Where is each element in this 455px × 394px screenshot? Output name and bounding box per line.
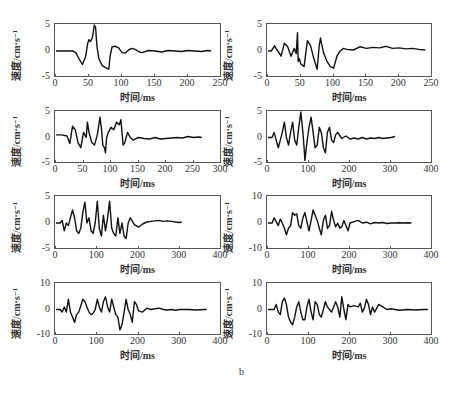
x-tick-label: 100 bbox=[89, 250, 104, 260]
x-axis-label: 时间/ms bbox=[332, 261, 367, 276]
x-tick-label: 250 bbox=[424, 78, 439, 88]
x-axis-label: 时间/ms bbox=[120, 347, 155, 362]
x-tick-label: 300 bbox=[383, 336, 398, 346]
x-tick-label: 200 bbox=[130, 336, 145, 346]
x-tick-mark bbox=[55, 246, 56, 249]
x-tick-label: 100 bbox=[89, 336, 104, 346]
x-tick-mark bbox=[308, 332, 309, 335]
x-tick-mark bbox=[349, 160, 350, 163]
x-tick-mark bbox=[308, 246, 309, 249]
y-axis-label: 速度/cm·s⁻¹ bbox=[8, 202, 23, 253]
y-axis-label: 速度/cm·s⁻¹ bbox=[220, 202, 235, 253]
plot-area bbox=[266, 23, 432, 77]
x-tick-mark bbox=[267, 332, 268, 335]
plot-area bbox=[54, 110, 221, 163]
y-tick-label: 0 bbox=[26, 217, 50, 227]
x-tick-label: 300 bbox=[171, 250, 186, 260]
x-tick-mark bbox=[267, 246, 268, 249]
x-tick-label: 100 bbox=[301, 164, 316, 174]
x-tick-label: 200 bbox=[342, 164, 357, 174]
y-tick-label: -10 bbox=[238, 243, 262, 253]
y-tick-label: -5 bbox=[26, 71, 50, 81]
x-tick-mark bbox=[55, 74, 56, 77]
x-tick-mark bbox=[390, 246, 391, 249]
x-tick-mark bbox=[390, 160, 391, 163]
plot-area bbox=[266, 110, 432, 163]
x-axis-label: 时间/ms bbox=[332, 89, 367, 104]
x-tick-label: 300 bbox=[383, 250, 398, 260]
x-tick-label: 300 bbox=[383, 164, 398, 174]
y-tick-label: 0 bbox=[238, 132, 262, 142]
x-axis-label: 时间/ms bbox=[120, 89, 155, 104]
x-tick-label: 150 bbox=[358, 78, 373, 88]
x-tick-mark bbox=[165, 160, 166, 163]
y-tick-label: -5 bbox=[238, 157, 262, 167]
x-tick-label: 400 bbox=[424, 164, 439, 174]
y-tick-label: -5 bbox=[26, 243, 50, 253]
x-tick-label: 0 bbox=[265, 164, 270, 174]
x-tick-mark bbox=[55, 160, 56, 163]
waveform-line bbox=[55, 196, 222, 250]
x-tick-mark bbox=[349, 246, 350, 249]
x-axis-label: 时间/ms bbox=[332, 347, 367, 362]
x-tick-mark bbox=[267, 74, 268, 77]
x-tick-label: 100 bbox=[301, 250, 316, 260]
y-tick-label: 5 bbox=[26, 106, 50, 116]
x-tick-mark bbox=[333, 74, 334, 77]
y-tick-label: 0 bbox=[238, 217, 262, 227]
x-tick-mark bbox=[154, 74, 155, 77]
y-axis-label: 速度/cm·s⁻¹ bbox=[220, 116, 235, 167]
x-tick-label: 200 bbox=[342, 336, 357, 346]
waveform-line bbox=[55, 283, 222, 336]
x-tick-mark bbox=[110, 160, 111, 163]
x-tick-label: 200 bbox=[180, 78, 195, 88]
x-tick-label: 0 bbox=[53, 250, 58, 260]
x-tick-label: 0 bbox=[265, 78, 270, 88]
waveform-line bbox=[267, 283, 433, 336]
x-tick-label: 0 bbox=[53, 78, 58, 88]
x-tick-mark bbox=[431, 160, 432, 163]
y-tick-label: 5 bbox=[238, 106, 262, 116]
x-tick-label: 0 bbox=[265, 336, 270, 346]
waveform-line bbox=[55, 111, 222, 164]
x-tick-label: 0 bbox=[53, 164, 58, 174]
x-tick-label: 300 bbox=[171, 336, 186, 346]
x-tick-label: 200 bbox=[130, 250, 145, 260]
y-tick-label: 0 bbox=[26, 45, 50, 55]
x-tick-label: 100 bbox=[325, 78, 340, 88]
x-tick-mark bbox=[193, 160, 194, 163]
y-tick-label: 5 bbox=[238, 19, 262, 29]
x-axis-label: 时间/ms bbox=[120, 261, 155, 276]
figure-caption: b bbox=[239, 366, 244, 377]
plot-area bbox=[54, 23, 221, 77]
x-tick-label: 150 bbox=[130, 164, 145, 174]
x-tick-label: 100 bbox=[114, 78, 129, 88]
plot-area bbox=[266, 195, 432, 249]
y-tick-label: 10 bbox=[238, 278, 262, 288]
x-tick-mark bbox=[96, 332, 97, 335]
y-axis-label: 速度/cm·s⁻¹ bbox=[220, 30, 235, 81]
x-tick-mark bbox=[83, 160, 84, 163]
x-tick-mark bbox=[390, 332, 391, 335]
x-axis-label: 时间/ms bbox=[120, 175, 155, 190]
y-tick-label: 0 bbox=[238, 304, 262, 314]
y-tick-label: 0 bbox=[238, 45, 262, 55]
x-tick-mark bbox=[431, 332, 432, 335]
waveform-line bbox=[55, 24, 222, 78]
x-tick-mark bbox=[179, 246, 180, 249]
y-tick-label: 5 bbox=[26, 19, 50, 29]
x-tick-mark bbox=[138, 246, 139, 249]
x-tick-label: 250 bbox=[185, 164, 200, 174]
x-tick-label: 200 bbox=[342, 250, 357, 260]
x-tick-mark bbox=[88, 74, 89, 77]
x-tick-label: 50 bbox=[78, 164, 88, 174]
x-tick-mark bbox=[121, 74, 122, 77]
x-tick-mark bbox=[55, 332, 56, 335]
y-tick-label: 0 bbox=[26, 132, 50, 142]
x-tick-mark bbox=[349, 332, 350, 335]
x-tick-mark bbox=[398, 74, 399, 77]
x-tick-mark bbox=[431, 74, 432, 77]
x-tick-mark bbox=[267, 160, 268, 163]
y-axis-label: 速度/cm·s⁻¹ bbox=[220, 288, 235, 339]
x-tick-mark bbox=[308, 160, 309, 163]
